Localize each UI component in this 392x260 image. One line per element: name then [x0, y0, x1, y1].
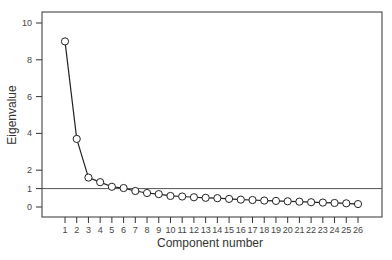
x-axis: 1234567891011121314151617181920212223242…	[62, 217, 363, 235]
x-tick-label: 8	[145, 225, 150, 235]
y-axis: 01246810	[22, 18, 42, 212]
x-tick-label: 15	[224, 225, 234, 235]
data-point-marker	[179, 193, 186, 200]
x-tick-label: 14	[212, 225, 222, 235]
data-point-marker	[296, 198, 303, 205]
eigenvalue-series	[61, 38, 361, 208]
y-tick-label: 10	[22, 18, 32, 28]
y-tick-label: 6	[27, 92, 32, 102]
x-tick-label: 3	[86, 225, 91, 235]
x-tick-label: 20	[283, 225, 293, 235]
x-tick-label: 10	[165, 225, 175, 235]
data-point-marker	[143, 189, 150, 196]
x-tick-label: 17	[248, 225, 258, 235]
x-tick-label: 11	[178, 225, 187, 235]
data-point-marker	[97, 179, 104, 186]
x-tick-label: 5	[109, 225, 114, 235]
data-point-marker	[108, 183, 115, 190]
data-point-marker	[308, 199, 315, 206]
x-tick-label: 24	[330, 225, 340, 235]
data-point-marker	[73, 135, 80, 142]
x-tick-label: 4	[98, 225, 103, 235]
data-point-marker	[343, 200, 350, 207]
data-point-marker	[237, 196, 244, 203]
x-tick-label: 26	[353, 225, 363, 235]
y-tick-label: 4	[27, 128, 32, 138]
y-tick-label: 2	[27, 165, 32, 175]
data-point-marker	[132, 187, 139, 194]
x-tick-label: 19	[271, 225, 281, 235]
x-tick-label: 16	[236, 225, 246, 235]
series-line	[65, 41, 358, 204]
x-tick-label: 6	[121, 225, 126, 235]
data-point-marker	[272, 197, 279, 204]
x-tick-label: 12	[189, 225, 199, 235]
y-axis-title: Eigenvalue	[5, 85, 19, 145]
x-tick-label: 22	[306, 225, 316, 235]
y-tick-label: 8	[27, 55, 32, 65]
x-tick-label: 1	[62, 225, 67, 235]
plot-frame	[42, 12, 382, 217]
x-tick-label: 9	[156, 225, 161, 235]
data-point-marker	[202, 194, 209, 201]
data-point-marker	[249, 196, 256, 203]
x-tick-label: 21	[294, 225, 304, 235]
scree-plot: 01246810 1234567891011121314151617181920…	[0, 0, 392, 260]
x-tick-label: 13	[201, 225, 211, 235]
data-point-marker	[167, 192, 174, 199]
x-axis-title: Component number	[157, 236, 263, 250]
x-tick-label: 25	[341, 225, 351, 235]
y-tick-label: 1	[27, 184, 32, 194]
data-point-marker	[214, 195, 221, 202]
data-point-marker	[225, 195, 232, 202]
data-point-marker	[331, 199, 338, 206]
x-tick-label: 18	[259, 225, 269, 235]
x-tick-label: 2	[74, 225, 79, 235]
data-point-marker	[85, 174, 92, 181]
data-point-marker	[120, 184, 127, 191]
x-tick-label: 7	[133, 225, 138, 235]
x-tick-label: 23	[318, 225, 328, 235]
data-point-marker	[354, 200, 361, 207]
data-point-marker	[319, 199, 326, 206]
data-point-marker	[284, 198, 291, 205]
data-point-marker	[61, 38, 68, 45]
data-point-marker	[190, 194, 197, 201]
data-point-marker	[155, 191, 162, 198]
y-tick-label: 0	[27, 202, 32, 212]
data-point-marker	[261, 197, 268, 204]
